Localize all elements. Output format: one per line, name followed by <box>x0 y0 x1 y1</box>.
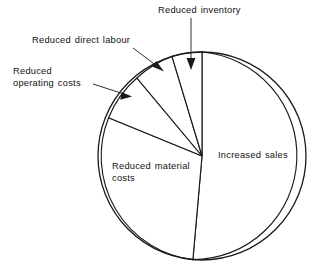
pie-label-reduced-operating-costs: Reduced operating costs <box>13 66 81 89</box>
pie-label-increased-sales: Increased sales <box>218 150 288 162</box>
pie-label-reduced-material-costs: Reduced material costs <box>112 161 190 184</box>
pie-chart-figure: Reduced inventory Reduced direct labour … <box>0 0 318 274</box>
pie-label-reduced-inventory: Reduced inventory <box>158 5 241 17</box>
pie-label-reduced-direct-labour: Reduced direct labour <box>32 35 130 47</box>
